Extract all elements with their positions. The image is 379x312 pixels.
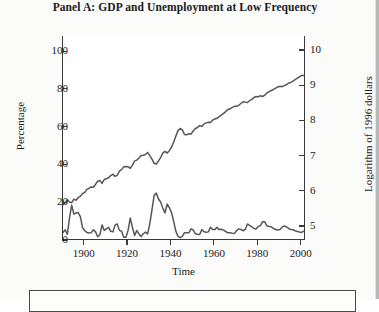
y-tick-right xyxy=(299,85,304,86)
x-tick xyxy=(170,240,171,245)
y-tick-label-right: 8 xyxy=(310,114,316,125)
y-tick-label-left: 0 xyxy=(63,234,69,245)
y-tick-right xyxy=(299,120,304,121)
x-tick-label: 2000 xyxy=(281,248,321,259)
x-tick-label: 1980 xyxy=(237,248,277,259)
y-tick-label-left: 80 xyxy=(57,83,68,94)
x-tick xyxy=(83,240,84,245)
x-axis-label: Time xyxy=(62,265,305,277)
x-tick xyxy=(213,240,214,245)
x-tick xyxy=(126,240,127,245)
plot-area xyxy=(62,36,305,240)
legend-box xyxy=(29,290,356,312)
plot-canvas xyxy=(63,36,306,240)
y-tick-right xyxy=(299,155,304,156)
y-tick-label-right: 5 xyxy=(310,220,316,231)
y-tick-right xyxy=(299,49,304,50)
y-tick-label-right: 9 xyxy=(310,79,316,90)
x-tick-label: 1920 xyxy=(107,248,147,259)
x-tick xyxy=(257,240,258,245)
y-tick-label-right: 6 xyxy=(310,185,316,196)
series-unemployment xyxy=(63,193,304,238)
y-tick-label-left: 20 xyxy=(57,196,68,207)
series-gdp xyxy=(63,75,304,204)
y-axis-left-label: Percentage xyxy=(14,81,26,171)
x-tick-label: 1900 xyxy=(64,248,104,259)
y-tick-label-left: 60 xyxy=(57,121,68,132)
x-tick xyxy=(300,240,301,245)
y-tick-right xyxy=(299,225,304,226)
y-tick-label-right: 10 xyxy=(310,44,321,55)
x-tick-label: 1960 xyxy=(194,248,234,259)
x-tick-label: 1940 xyxy=(150,248,190,259)
y-tick-right xyxy=(299,190,304,191)
y-tick-label-left: 100 xyxy=(52,45,69,56)
y-tick-label-right: 7 xyxy=(310,150,316,161)
y-tick-label-left: 40 xyxy=(57,158,68,169)
y-axis-right-label: Logarithm of 1996 dollars xyxy=(362,54,374,214)
panel-title: Panel A: GDP and Unemployment at Low Fre… xyxy=(0,1,370,13)
